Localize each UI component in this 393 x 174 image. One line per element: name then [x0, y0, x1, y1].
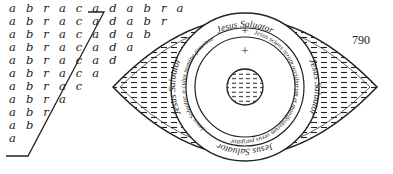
pupil [227, 69, 263, 105]
eye-diagram: + + Jesus Saluator Jesus Saluator Jesus … [0, 0, 393, 174]
abracadabra-eye-figure: a b r a c a d a b r a a b r a c a d a b … [0, 0, 393, 174]
triangle-bracket [6, 12, 104, 156]
iris-cross: + [241, 43, 248, 58]
